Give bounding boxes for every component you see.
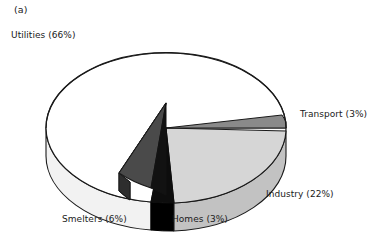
slice-label-transport: Transport (3%) (300, 110, 367, 119)
slice-label-homes: Homes (3%) (172, 215, 228, 224)
pie-chart-figure: (a) Utilities (66%) Transport (3%) Indus… (0, 0, 378, 241)
slice-label-smelters: Smelters (6%) (62, 215, 127, 224)
figure-caption: (a) (14, 4, 28, 15)
slice-label-industry: Industry (22%) (266, 190, 334, 199)
slice-side-homes (151, 202, 174, 231)
slice-label-utilities: Utilities (66%) (11, 31, 76, 40)
